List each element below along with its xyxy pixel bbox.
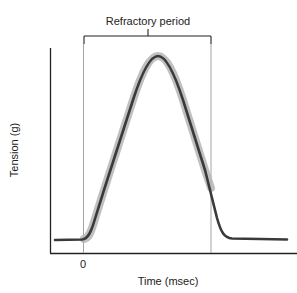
x-axis-label: Time (msec) xyxy=(138,275,199,287)
x-tick-0: 0 xyxy=(80,258,86,270)
twitch-chart xyxy=(0,0,297,293)
y-axis-label: Tension (g) xyxy=(8,123,20,177)
refractory-bracket xyxy=(84,29,211,44)
refractory-highlight xyxy=(84,56,211,239)
tension-curve xyxy=(55,56,287,240)
refractory-period-label: Refractory period xyxy=(106,15,190,27)
